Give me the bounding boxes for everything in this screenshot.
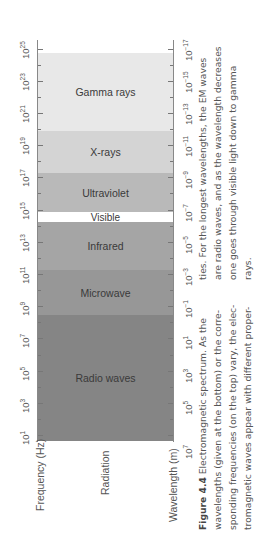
wavelength-tick	[170, 226, 173, 227]
frequency-tick	[38, 242, 43, 243]
frequency-axis-title: Frequency (Hz)	[34, 439, 46, 511]
wavelength-tick	[168, 145, 173, 146]
frequency-tick	[38, 387, 41, 388]
band-label: X-rays	[38, 146, 173, 158]
caption-line: wavelengths (given at the bottom) or the…	[210, 305, 225, 530]
wavelength-tick	[168, 177, 173, 178]
frequency-tick	[38, 129, 41, 130]
wavelength-tick	[168, 49, 173, 50]
frequency-tick	[38, 210, 43, 211]
frequency-tick-label: 1013	[19, 234, 31, 252]
frequency-tick	[38, 435, 43, 436]
band-infrared: Infrared	[38, 222, 173, 270]
wavelength-tick	[168, 435, 173, 436]
wavelength-tick-label: 101	[182, 336, 194, 350]
frequency-tick	[38, 258, 41, 259]
frequency-tick-label: 1023	[19, 73, 31, 91]
frequency-tick-label: 1019	[19, 137, 31, 155]
band-ultraviolet: Ultraviolet	[38, 173, 173, 212]
wavelength-tick-label: 10−3	[182, 268, 194, 286]
frequency-tick-label: 1015	[19, 202, 31, 220]
caption-line: one goes through visible light down to g…	[225, 46, 240, 280]
frequency-tick	[38, 355, 41, 356]
band-label: Visible	[38, 212, 173, 223]
wavelength-tick	[168, 371, 173, 372]
band-label: Radio waves	[38, 372, 173, 384]
frequency-tick	[38, 338, 43, 339]
frequency-tick	[38, 49, 43, 50]
frequency-tick	[38, 81, 43, 82]
wavelength-axis-title: Wavelength (m)	[167, 448, 179, 522]
wavelength-tick	[168, 306, 173, 307]
wavelength-tick	[168, 274, 173, 275]
frequency-tick	[38, 306, 43, 307]
frequency-tick-label: 1017	[19, 169, 31, 187]
frequency-axis-line	[37, 40, 38, 442]
wavelength-tick	[170, 65, 173, 66]
frequency-tick	[38, 226, 41, 227]
figure-caption: Figure 4.4 Electromagnetic spectrum. As …	[195, 305, 255, 530]
caption-line: are radio waves, and as the wavelength d…	[210, 46, 225, 280]
frequency-tick	[38, 65, 41, 66]
wavelength-tick-label: 10−9	[182, 171, 194, 189]
caption-line: sponding frequencies (on the top) vary, …	[225, 305, 240, 530]
caption-line: ties. For the longest wavelengths, the E…	[195, 46, 210, 280]
frequency-tick	[38, 193, 41, 194]
wavelength-axis-line	[173, 40, 174, 442]
wavelength-tick-label: 10−1	[182, 300, 194, 318]
wavelength-tick-label: 10−11	[182, 136, 194, 157]
frequency-tick-label: 1021	[19, 105, 31, 123]
wavelength-tick	[168, 81, 173, 82]
wavelength-tick	[170, 355, 173, 356]
wavelength-tick-label: 105	[182, 401, 194, 415]
frequency-tick-label: 109	[19, 302, 31, 316]
frequency-tick-label: 107	[19, 334, 31, 348]
band-x-rays: X-rays	[38, 131, 173, 173]
frequency-tick	[38, 403, 43, 404]
wavelength-tick	[170, 387, 173, 388]
frequency-tick-label: 105	[19, 367, 31, 381]
wavelength-tick-label: 10−5	[182, 236, 194, 254]
frequency-tick	[38, 419, 41, 420]
wavelength-tick	[170, 129, 173, 130]
band-label: Gamma rays	[38, 86, 173, 98]
wavelength-tick-label: 10−15	[182, 71, 194, 93]
frequency-tick	[38, 145, 43, 146]
frequency-tick	[38, 97, 41, 98]
figure-caption-continued: ties. For the longest wavelengths, the E…	[195, 46, 255, 280]
wavelength-tick	[168, 242, 173, 243]
caption-line: rays.	[240, 46, 255, 280]
wavelength-tick	[168, 210, 173, 211]
band-radio-waves: Radio waves	[38, 315, 173, 441]
frequency-tick-label: 1025	[19, 41, 31, 59]
wavelength-tick	[168, 113, 173, 114]
caption-line: Figure 4.4 Electromagnetic spectrum. As …	[195, 305, 210, 530]
figure-number: Figure 4.4	[197, 477, 208, 530]
wavelength-tick	[170, 258, 173, 259]
wavelength-tick-label: 10−13	[182, 103, 194, 125]
frequency-tick	[38, 322, 41, 323]
frequency-tick-label: 101	[19, 431, 31, 445]
wavelength-tick	[168, 338, 173, 339]
radiation-label: Radiation	[99, 451, 111, 495]
wavelength-tick-label: 10−17	[182, 39, 194, 61]
frequency-tick	[38, 113, 43, 114]
caption-line: tromagnetic waves appear with different …	[240, 305, 255, 530]
wavelength-tick	[170, 419, 173, 420]
wavelength-tick	[170, 97, 173, 98]
wavelength-tick	[170, 193, 173, 194]
wavelength-tick-label: 10−7	[182, 204, 194, 222]
frequency-tick-label: 1011	[19, 267, 31, 284]
band-label: Infrared	[38, 240, 173, 252]
frequency-tick	[38, 371, 43, 372]
frequency-tick	[38, 290, 41, 291]
wavelength-tick-label: 107	[182, 445, 194, 459]
frequency-tick	[38, 177, 43, 178]
band-visible: Visible	[38, 212, 173, 222]
band-microwave: Microwave	[38, 270, 173, 315]
wavelength-tick	[170, 290, 173, 291]
frequency-tick	[38, 161, 41, 162]
band-label: Microwave	[38, 287, 173, 299]
band-label: Ultraviolet	[38, 187, 173, 199]
wavelength-tick-label: 103	[182, 369, 194, 383]
